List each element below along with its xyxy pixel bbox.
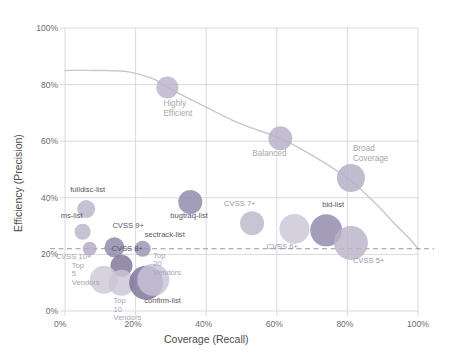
scatter-chart: 0%20%40%60%80%100%0%20%40%60%80%100% ful… (0, 0, 449, 353)
annotation-label: Balanced (252, 149, 298, 159)
bubble-point[interactable] (334, 226, 368, 260)
bubble-point-label: CVSS 6+ (267, 243, 298, 252)
x-tick-label: 40% (195, 319, 212, 329)
bubble-point-label: CVSS 8+ (112, 245, 143, 254)
x-tick-label: 0% (54, 319, 66, 329)
annotation-label: HighlyEfficient (163, 99, 209, 119)
bubble-point-label: bid-list (322, 201, 344, 210)
bubble-point-label: CVSS 7+ (224, 200, 255, 209)
x-tick-label: 100% (407, 319, 429, 329)
bubble-point-label: fulldisc-list (70, 186, 105, 195)
bubble-point-label: ms-list (61, 212, 83, 221)
x-tick-label: 80% (336, 319, 353, 329)
bubble-point-label: confirm-list (144, 297, 181, 306)
y-tick-label: 100% (30, 23, 58, 33)
bubble-series (75, 76, 368, 299)
annotation-label: BroadCoverage (353, 144, 399, 164)
bubble-point-label: CVSS 9+ (112, 222, 143, 231)
bubble-point[interactable] (337, 164, 365, 192)
x-tick-label: 60% (266, 319, 283, 329)
y-tick-label: 80% (30, 80, 58, 90)
y-tick-label: 20% (30, 249, 58, 259)
y-tick-label: 0% (30, 306, 58, 316)
bubble-point[interactable] (156, 76, 178, 98)
bubble-point-label: sectrack-list (145, 231, 185, 240)
bubble-point-label: CVSS 5+ (353, 257, 384, 266)
y-axis-title: Efficiency (Precision) (12, 134, 24, 232)
bubble-point-label: Top5Vendors (72, 262, 118, 288)
bubble-point-label: Top20Vendors (153, 252, 199, 278)
bubble-point[interactable] (268, 126, 292, 150)
plot-canvas (0, 0, 449, 353)
bubble-point[interactable] (240, 211, 264, 235)
bubble-point[interactable] (75, 224, 91, 240)
x-axis-title: Coverage (Recall) (164, 333, 249, 345)
bubble-point-label: bugtraq-list (170, 212, 208, 221)
y-tick-label: 40% (30, 193, 58, 203)
y-tick-label: 60% (30, 136, 58, 146)
bubble-point[interactable] (279, 214, 309, 244)
